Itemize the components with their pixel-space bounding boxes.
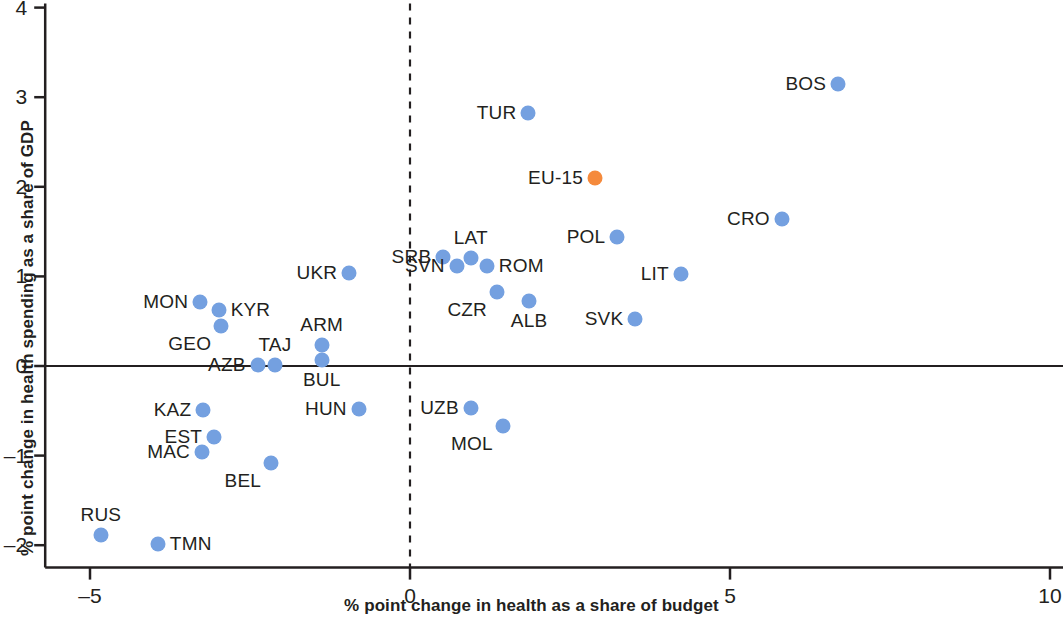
x-axis-title: % point change in health as a share of b… <box>0 596 1063 616</box>
plot-area: BOSTUREU-15CROPOLLATSRBSVNROMUKRLITCZRAL… <box>0 0 1063 626</box>
data-point-label: MAC <box>147 441 190 463</box>
data-point <box>267 358 282 373</box>
y-tick-label: 4 <box>16 0 28 20</box>
data-point <box>93 528 108 543</box>
data-point <box>522 294 537 309</box>
data-point <box>463 251 478 266</box>
data-point <box>774 212 789 227</box>
data-point-label: SVK <box>585 308 624 330</box>
y-tick-label: 3 <box>16 85 28 109</box>
data-point-label: TUR <box>477 102 517 124</box>
data-point <box>207 429 222 444</box>
data-point-label: LAT <box>454 227 488 249</box>
data-point <box>314 352 329 367</box>
data-point <box>831 76 846 91</box>
data-point <box>479 258 494 273</box>
data-point <box>587 170 602 185</box>
data-point-label: ROM <box>499 255 544 277</box>
data-point <box>449 258 464 273</box>
data-point <box>673 266 688 281</box>
data-point-label: KAZ <box>154 399 192 421</box>
data-point <box>463 401 478 416</box>
data-point-label: ARM <box>300 314 343 336</box>
data-point-label: GEO <box>168 333 211 355</box>
data-point <box>351 402 366 417</box>
data-point-label: POL <box>567 226 606 248</box>
data-point <box>610 229 625 244</box>
data-point <box>521 106 536 121</box>
data-point-label: TAJ <box>258 334 291 356</box>
data-point <box>196 402 211 417</box>
data-point-label: MON <box>143 291 188 313</box>
data-point <box>495 419 510 434</box>
scatter-chart: BOSTUREU-15CROPOLLATSRBSVNROMUKRLITCZRAL… <box>0 0 1063 626</box>
data-point-label: RUS <box>81 504 122 526</box>
data-point <box>628 311 643 326</box>
data-point <box>193 295 208 310</box>
data-point-label: MOL <box>451 433 493 455</box>
data-point-label: KYR <box>231 299 271 321</box>
data-point <box>264 455 279 470</box>
data-point <box>342 265 357 280</box>
data-point <box>150 537 165 552</box>
data-point-label: SVN <box>405 255 445 277</box>
data-point <box>214 318 229 333</box>
data-point-label: UKR <box>296 262 337 284</box>
data-point-label: TMN <box>170 533 212 555</box>
data-point-label: CZR <box>447 299 487 321</box>
data-point <box>490 284 505 299</box>
data-point-label: ALB <box>511 310 548 332</box>
data-point <box>211 302 226 317</box>
data-point-label: AZB <box>208 354 246 376</box>
data-point-label: BOS <box>785 73 826 95</box>
data-point-label: LIT <box>641 263 669 285</box>
data-point-label: EU-15 <box>528 167 583 189</box>
data-point <box>250 358 265 373</box>
data-point <box>314 338 329 353</box>
data-point-label: CRO <box>727 208 770 230</box>
data-point-label: BUL <box>303 369 341 391</box>
y-axis-title: % point change in health spending as a s… <box>18 120 38 556</box>
data-point-label: UZB <box>420 397 459 419</box>
data-point-label: BEL <box>225 470 262 492</box>
data-point-label: HUN <box>305 398 347 420</box>
